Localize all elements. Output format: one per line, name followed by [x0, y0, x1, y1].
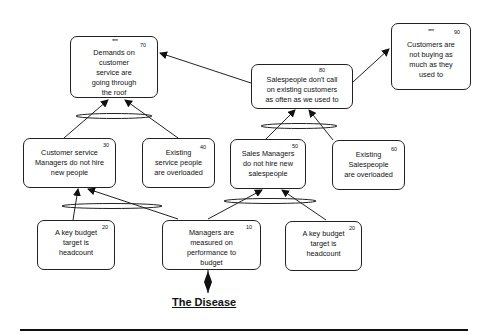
node-text: Customer service Managers do not hire ne…: [26, 148, 113, 178]
node-number: 80: [319, 67, 325, 73]
node-20-right[interactable]: 20 A key budget target is headcount: [285, 221, 362, 271]
node-70[interactable]: *** 70 Demands on customer service are g…: [70, 36, 158, 98]
node-50[interactable]: 50 Sales Managers do not hire new salesp…: [230, 139, 306, 189]
node-60[interactable]: 60 Existing Salespeople are overloaded: [332, 140, 405, 190]
arrow-10-to-50: [208, 190, 262, 219]
node-text: Existing Salespeople are overloaded: [335, 150, 402, 180]
and-connector-30: [62, 204, 162, 209]
node-90[interactable]: *** 90 Customers are not buying as much …: [391, 23, 471, 90]
node-marker: ***: [112, 38, 118, 44]
node-text: A key budget target is headcount: [40, 228, 112, 258]
arrow-30-to-70: [64, 100, 108, 138]
arrow-80-to-70: [160, 53, 251, 83]
node-30[interactable]: 30 Customer service Managers do not hire…: [23, 138, 116, 188]
node-20-left[interactable]: 20 A key budget target is headcount: [37, 220, 115, 270]
arrow-20b-to-50: [282, 190, 326, 220]
node-text: Demands on customer service are going th…: [73, 48, 155, 98]
and-connector-80: [261, 124, 337, 129]
node-text: Salespeople don't call on existing custo…: [254, 75, 350, 105]
bottom-divider: [20, 329, 468, 331]
arrow-80-to-90: [353, 49, 389, 82]
node-text: Customers are not buying as much as they…: [394, 40, 468, 80]
node-text: Existing service people are overloaded: [145, 148, 212, 178]
arrow-60-to-80: [309, 110, 333, 140]
node-40[interactable]: 40 Existing service people are overloade…: [142, 138, 215, 188]
node-marker: ***: [428, 28, 434, 34]
node-number: 90: [454, 29, 460, 35]
node-text: A key budget target is headcount: [288, 229, 359, 259]
arrow-40-to-70: [125, 100, 178, 138]
node-text: Managers are measured on performance to …: [165, 228, 258, 268]
node-10[interactable]: 10 Managers are measured on performance …: [162, 220, 261, 270]
node-text: Sales Managers do not hire new salespeop…: [233, 149, 303, 179]
root-cause-label: The Disease: [172, 296, 236, 308]
and-connector-70: [76, 114, 152, 119]
and-connector-50: [224, 199, 316, 204]
node-80[interactable]: 80 Salespeople don't call on existing cu…: [251, 64, 353, 109]
